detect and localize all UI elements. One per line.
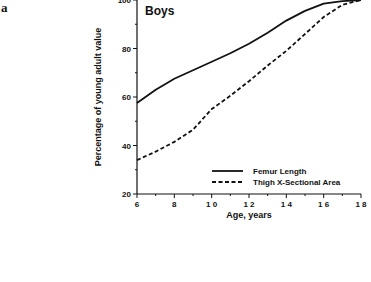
x-tick-label: 1 8 [355,200,367,209]
y-tick-label: 20 [122,190,131,199]
x-tick-label: 6 [135,200,140,209]
x-tick-label: 1 0 [206,200,218,209]
x-axis-title: Age, years [226,210,272,220]
legend-label: Thigh X-Sectional Area [253,178,341,187]
y-axis-title: Percentage of young adult value [93,28,103,167]
x-tick-label: 1 6 [318,200,330,209]
y-tick-label: 100 [118,0,132,5]
y-tick-label: 80 [122,45,131,54]
y-tick-label: 40 [122,142,131,151]
chart-title: Boys [145,4,175,18]
line-chart: 20406080100681 01 21 41 61 8 Femur Lengt… [0,0,371,282]
y-tick-label: 60 [122,93,131,102]
x-tick-label: 1 2 [243,200,255,209]
x-tick-label: 8 [172,200,177,209]
legend: Femur LengthThigh X-Sectional Area [212,167,341,187]
legend-label: Femur Length [253,167,306,176]
series-lines [137,0,361,160]
x-tick-label: 1 4 [281,200,293,209]
